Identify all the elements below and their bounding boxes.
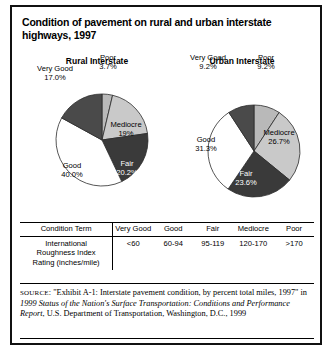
urban-interstate-pie-chart: Very Good 9.2% Poor 9.2% Mediocre 26.7% … [172, 67, 322, 217]
urban-label-poor-name: Poor [258, 53, 274, 62]
rural-label-very-good-value: 17.0% [44, 73, 66, 82]
table-cell-very-good: <60 [113, 236, 153, 270]
rural-label-fair: Fair 20.2% [107, 159, 147, 177]
page-title: Condition of pavement on rural and urban… [22, 16, 312, 42]
urban-label-very-good-name: Very Good [190, 53, 226, 62]
urban-label-mediocre-name: Mediocre [263, 128, 294, 137]
rural-label-good: Good 40.0% [49, 161, 95, 179]
urban-label-poor: Poor 9.2% [244, 53, 288, 71]
table-bottom-divider [20, 283, 314, 284]
rural-label-poor: Poor 3.7% [86, 53, 130, 71]
table-cell-fair: 95-119 [193, 236, 232, 270]
source-text-2: , U.S. Department of Transportation, Was… [43, 309, 247, 318]
table-row: International Roughness Index Rating (in… [20, 236, 314, 270]
table-row-label: International Roughness Index Rating (in… [20, 236, 113, 270]
source-text-1: : "Exhibit A-1: Interstate pavement cond… [49, 288, 307, 297]
urban-label-very-good-value: 9.2% [199, 62, 216, 71]
rural-label-mediocre-value: 19% [118, 129, 133, 138]
rural-label-poor-name: Poor [100, 53, 116, 62]
figure-container: Condition of pavement on rural and urban… [10, 5, 322, 345]
urban-label-mediocre: Mediocre 26.7% [251, 128, 307, 146]
table-header-condition-term: Condition Term [20, 223, 113, 237]
urban-label-fair-value: 23.6% [235, 178, 257, 187]
urban-label-good-value: 31.3% [195, 144, 217, 153]
rural-label-good-name: Good [63, 161, 82, 170]
urban-label-mediocre-value: 26.7% [268, 137, 290, 146]
urban-label-fair-name: Fair [239, 169, 252, 178]
rural-label-very-good-name: Very Good [37, 64, 73, 73]
urban-label-good: Good 31.3% [183, 135, 229, 153]
source-bottom-divider [20, 338, 314, 339]
table-header-very-good: Very Good [113, 223, 153, 237]
urban-label-very-good: Very Good 9.2% [178, 53, 238, 71]
rural-label-mediocre-name: Mediocre [110, 120, 141, 129]
table-header-poor: Poor [274, 223, 314, 237]
rural-label-poor-value: 3.7% [99, 62, 116, 71]
table-cell-poor: >170 [274, 236, 314, 270]
rural-label-mediocre: Mediocre 19% [100, 120, 152, 138]
iri-rating-table: Condition Term Very Good Good Fair Medio… [20, 222, 314, 270]
rural-label-fair-value: 20.2% [116, 168, 138, 177]
urban-label-poor-value: 9.2% [257, 62, 274, 71]
table-cell-mediocre: 120-170 [232, 236, 274, 270]
urban-label-fair: Fair 23.6% [226, 169, 266, 187]
table-header-good: Good [153, 223, 193, 237]
rural-label-very-good: Very Good 17.0% [20, 64, 90, 82]
rural-pie-svg [24, 67, 174, 217]
table-cell-good: 60-94 [153, 236, 193, 270]
urban-label-good-name: Good [197, 135, 216, 144]
rural-label-good-value: 40.0% [61, 170, 83, 179]
table-header-row: Condition Term Very Good Good Fair Medio… [20, 223, 314, 237]
row-label-line-3: Rating (inches/mile) [33, 258, 100, 267]
row-label-line-1: International [45, 239, 87, 248]
source-label: SOURCE [20, 289, 49, 297]
row-label-line-2: Roughness Index [37, 248, 96, 257]
rural-label-fair-name: Fair [120, 159, 133, 168]
table-header-mediocre: Mediocre [232, 223, 274, 237]
table-header-fair: Fair [193, 223, 232, 237]
source-note: SOURCE: "Exhibit A-1: Interstate pavemen… [20, 288, 312, 320]
rural-interstate-pie-chart: Very Good 17.0% Poor 3.7% Mediocre 19% F… [24, 67, 174, 217]
